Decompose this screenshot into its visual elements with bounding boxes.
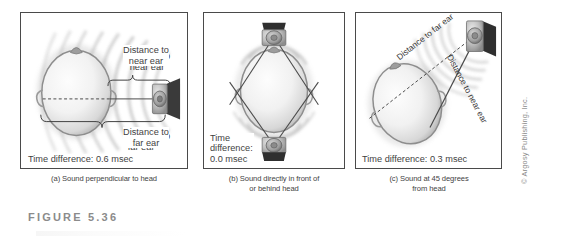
panel-a-label-far-ear: Distance to far ear xyxy=(123,127,169,148)
svg-text:Distance to far ear: Distance to far ear xyxy=(394,13,455,62)
panel-a: Distance to near ear Distance to far ear… xyxy=(20,12,188,169)
speaker-right xyxy=(152,78,180,119)
speaker-bottom xyxy=(262,137,286,161)
page-text-bleed xyxy=(36,231,186,236)
figure-5-36: Distance to near ear Distance to far ear… xyxy=(0,0,562,237)
panel-b-caption: (b) Sound directly in front of or behind… xyxy=(197,174,351,193)
panel-a-label-near-ear: Distance to near ear xyxy=(123,45,169,66)
panel-b: Time difference: 0.0 msec xyxy=(203,12,345,169)
figure-label-number: 5.36 xyxy=(88,211,118,223)
figure-label: FIGURE 5.36 xyxy=(28,211,118,223)
copyright-credit: © Argosy Publishing, Inc. xyxy=(508,8,524,184)
panel-c-caption: (c) Sound at 45 degrees from head xyxy=(352,174,506,193)
panel-a-time-difference: Time difference: 0.6 msec xyxy=(27,154,134,164)
panel-b-time-difference: Time difference: 0.0 msec xyxy=(209,133,254,165)
panel-c-illustration: Distance to far ear Distance to near ear xyxy=(356,13,501,168)
panel-c-time-difference: Time difference: 0.3 msec xyxy=(361,154,468,164)
panel-a-caption: (a) Sound perpendicular to head xyxy=(14,174,194,184)
speaker-top-right xyxy=(466,21,496,57)
figure-label-prefix: FIGURE xyxy=(28,211,83,223)
panel-c: Distance to far ear Distance to near ear… xyxy=(355,12,502,169)
copyright-text: © Argosy Publishing, Inc. xyxy=(520,97,529,184)
speaker-top xyxy=(262,23,286,46)
